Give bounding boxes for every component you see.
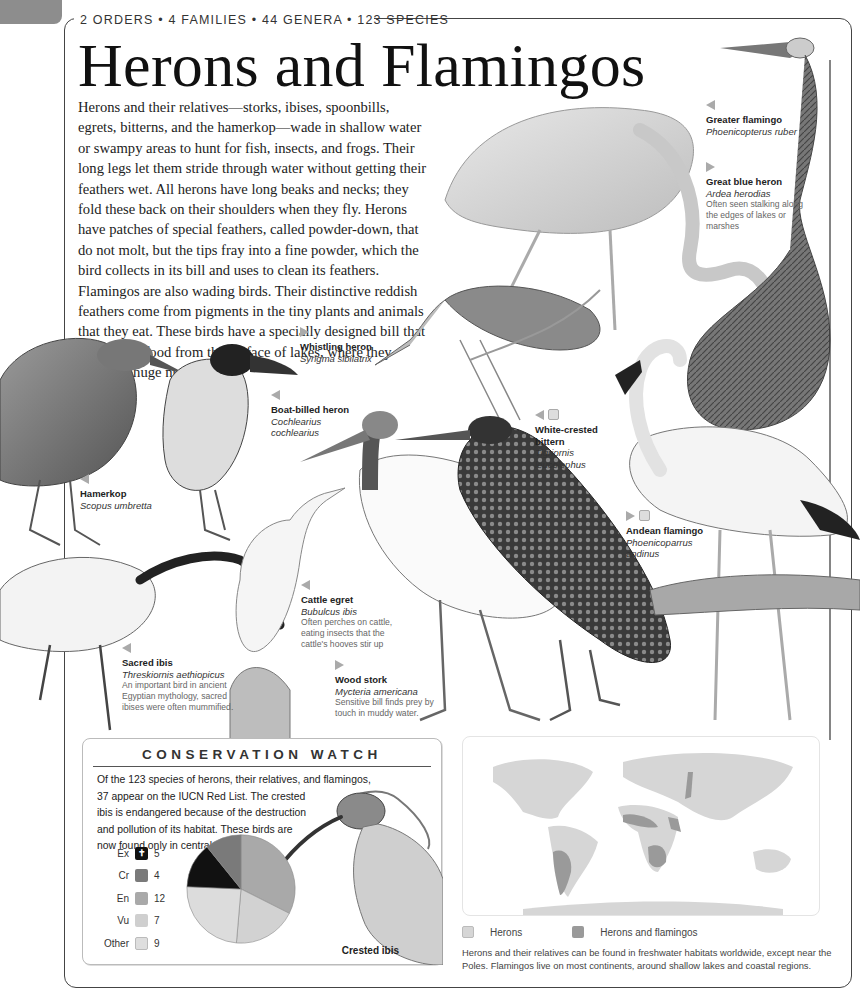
critical-status-icon [135, 869, 148, 882]
classification-kicker: 2 ORDERS • 4 FAMILIES • 44 GENERA • 123 … [80, 13, 449, 27]
legend-row-critical: Cr 4 [95, 865, 165, 888]
legend-row-endangered: En 12 [95, 887, 165, 910]
distribution-map [462, 736, 820, 916]
herons-flamingos-swatch [572, 926, 584, 938]
red-list-pie-chart [183, 831, 299, 947]
legend-herons-flamingos: Herons and flamingos [572, 926, 697, 938]
label-wood-stork: Wood stork Mycteria americana Sensitive … [335, 660, 440, 719]
map-legend: Herons Herons and flamingos [462, 926, 748, 938]
legend-herons: Herons [462, 926, 522, 938]
legend-row-vulnerable: Vu 7 [95, 910, 165, 933]
label-white-crested-bittern: White-crested bittern Tigriornis leucolo… [535, 409, 615, 470]
extinct-cross-icon: ✝ [135, 847, 148, 860]
page-title: Herons and Flamingos [78, 30, 645, 101]
legend-row-extinct: Ex ✝ 5 [95, 842, 165, 865]
arrow-right-icon [335, 660, 344, 670]
other-status-icon [135, 937, 148, 950]
arrow-right-icon [626, 511, 635, 521]
label-boat-billed-heron: Boat-billed heron Cochlearius cochleariu… [271, 390, 371, 439]
arrow-left-icon [706, 100, 715, 110]
pie-slice-other [187, 887, 241, 943]
vulnerable-status-icon [548, 409, 559, 420]
herons-swatch [462, 926, 474, 938]
conservation-watch-panel: CONSERVATION WATCH Of the 123 species of… [82, 738, 442, 965]
label-andean-flamingo: Andean flamingo Phoenicoparrus andinus [626, 510, 726, 560]
endangered-status-icon [135, 892, 148, 905]
status-legend: Ex ✝ 5 Cr 4 En 12 Vu 7 Other 9 [95, 842, 165, 955]
arrow-left-icon [80, 474, 89, 484]
label-cattle-egret: Cattle egret Bubulcus ibis Often perches… [301, 580, 406, 650]
label-great-blue-heron: Great blue heron Ardea herodias Often se… [706, 162, 816, 232]
label-greater-flamingo: Greater flamingo Phoenicopterus ruber [706, 100, 816, 137]
pie-slices [187, 835, 295, 943]
label-hamerkop: Hamerkop Scopus umbretta [80, 474, 160, 511]
label-whistling-heron: Whistling heron Syrigma sibilatrix [300, 327, 420, 364]
legend-row-other: Other 9 [95, 932, 165, 955]
arrow-left-icon [301, 580, 310, 590]
crested-ibis-caption: Crested ibis [342, 945, 399, 956]
vulnerable-status-icon [135, 914, 148, 927]
arrow-left-icon [271, 390, 280, 400]
vulnerable-status-icon [639, 510, 650, 521]
arrow-left-icon [122, 643, 131, 653]
map-caption: Herons and their relatives can be found … [462, 947, 842, 972]
arrow-right-icon [706, 162, 715, 172]
conservation-title: CONSERVATION WATCH [83, 747, 441, 762]
world-map-art [463, 737, 821, 917]
label-sacred-ibis: Sacred ibis Threskiornis aethiopicus An … [122, 643, 237, 713]
arrow-right-icon [300, 327, 309, 337]
arrow-left-icon [535, 410, 544, 420]
chapter-tab [0, 0, 62, 24]
divider [93, 766, 431, 767]
